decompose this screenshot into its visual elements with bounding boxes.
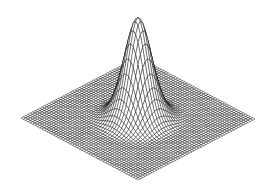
wireframe-surface-canvas: [0, 0, 271, 190]
mesh-group: [21, 17, 255, 180]
surface-plot-figure: [0, 0, 271, 190]
